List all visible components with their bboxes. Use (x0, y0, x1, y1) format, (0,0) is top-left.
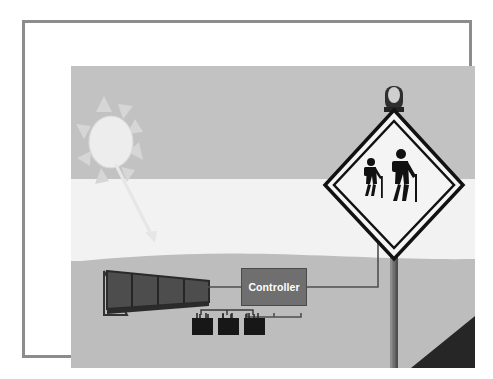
controller-label: Controller (248, 281, 299, 293)
foreground-slope-layer (71, 66, 475, 368)
illustration-canvas: Controller (71, 66, 475, 368)
figure-page: Controller (0, 0, 493, 379)
figure-frame: Controller (22, 20, 472, 358)
foreground-slope-shape (411, 316, 475, 368)
charge-controller-box: Controller (241, 268, 307, 306)
